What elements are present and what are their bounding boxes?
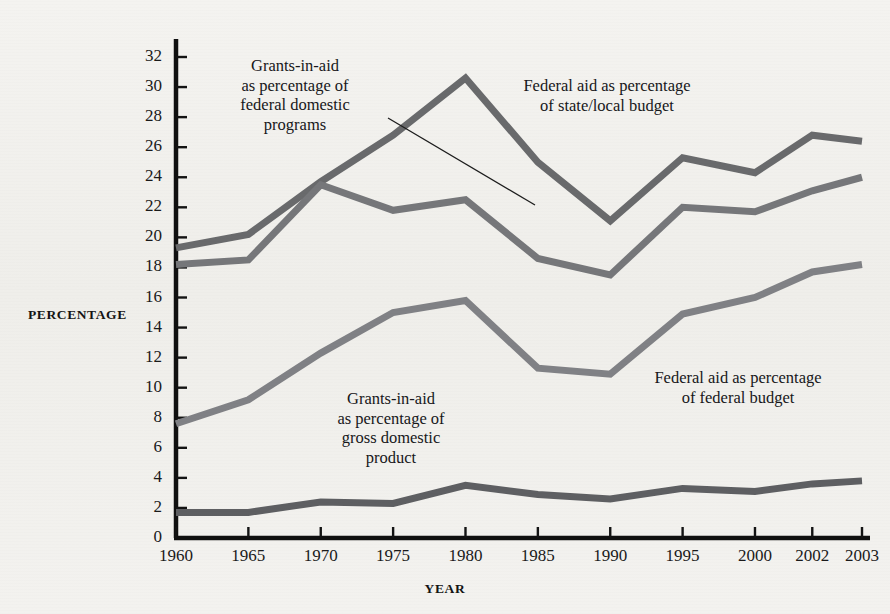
x-axis-tick-label: 1965 bbox=[213, 546, 283, 566]
y-axis-tick-label: 0 bbox=[128, 527, 162, 547]
annotation-grants-in-aid-federal-domestic-programs: Grants-in-aid as percentage of federal d… bbox=[200, 56, 390, 134]
y-axis-tick-label: 6 bbox=[128, 437, 162, 457]
chart-series-lines bbox=[176, 78, 862, 512]
y-axis-tick-label: 10 bbox=[128, 377, 162, 397]
y-axis-tick-label: 26 bbox=[128, 136, 162, 156]
y-axis-title: PERCENTAGE bbox=[28, 307, 127, 323]
y-axis-tick-label: 32 bbox=[128, 46, 162, 66]
chart-figure: PERCENTAGE YEAR 024681012141618202224262… bbox=[0, 0, 890, 614]
x-axis-tick-label: 1970 bbox=[286, 546, 356, 566]
x-axis-tick-label: 2003 bbox=[827, 546, 890, 566]
y-axis-tick-label: 18 bbox=[128, 256, 162, 276]
x-axis-tick-label: 1995 bbox=[648, 546, 718, 566]
x-axis-tick-label: 1975 bbox=[358, 546, 428, 566]
x-axis-title: YEAR bbox=[0, 581, 890, 597]
y-axis-tick-label: 2 bbox=[128, 497, 162, 517]
series-line-3 bbox=[176, 481, 862, 513]
annotation-federal-aid-state-local-budget: Federal aid as percentage of state/local… bbox=[482, 76, 732, 115]
annotation-federal-aid-federal-budget: Federal aid as percentage of federal bud… bbox=[608, 368, 868, 407]
annotation-grants-in-aid-gross-domestic-product: Grants-in-aid as percentage of gross dom… bbox=[286, 389, 496, 467]
y-axis-tick-label: 12 bbox=[128, 347, 162, 367]
x-axis-tick-label: 1985 bbox=[503, 546, 573, 566]
y-axis-tick-label: 30 bbox=[128, 76, 162, 96]
y-axis-tick-label: 20 bbox=[128, 226, 162, 246]
y-axis-tick-label: 16 bbox=[128, 287, 162, 307]
y-axis-tick-label: 14 bbox=[128, 317, 162, 337]
x-axis-tick-label: 1980 bbox=[430, 546, 500, 566]
y-axis-tick-label: 8 bbox=[128, 407, 162, 427]
x-axis-tick-label: 1960 bbox=[141, 546, 211, 566]
series-line-1 bbox=[176, 177, 862, 275]
x-axis-tick-label: 1990 bbox=[575, 546, 645, 566]
y-axis-tick-label: 22 bbox=[128, 196, 162, 216]
y-axis-tick-label: 24 bbox=[128, 166, 162, 186]
y-axis-tick-label: 28 bbox=[128, 106, 162, 126]
y-axis-tick-label: 4 bbox=[128, 467, 162, 487]
